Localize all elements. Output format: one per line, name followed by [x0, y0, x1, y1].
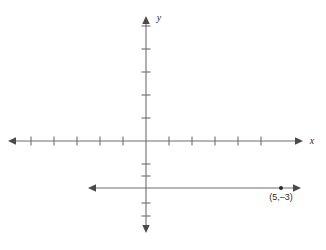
- plotted-line-group: [88, 184, 301, 191]
- plot-line-left-arrow-icon: [88, 184, 96, 191]
- point-label-5-neg3: (5,–3): [269, 192, 293, 202]
- point-marker-5-neg3: [279, 186, 283, 190]
- x-axis-group: x: [8, 135, 315, 146]
- plot-line-right-arrow-icon: [293, 184, 301, 191]
- x-axis-right-arrow-icon: [295, 137, 303, 144]
- y-axis-label: y: [156, 12, 162, 23]
- y-axis-group: y: [142, 12, 162, 233]
- coordinate-plane-figure: x y (5,–3): [0, 0, 326, 250]
- x-axis-left-arrow-icon: [8, 137, 16, 144]
- x-axis-label: x: [309, 135, 315, 146]
- coordinate-graph-canvas: x y (5,–3): [0, 0, 326, 250]
- y-axis-up-arrow-icon: [142, 16, 149, 24]
- y-axis-down-arrow-icon: [142, 225, 149, 233]
